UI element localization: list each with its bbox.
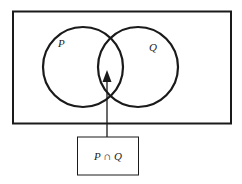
set-q-circle <box>98 27 178 107</box>
set-q-label: Q <box>149 41 157 53</box>
set-p-circle <box>43 27 123 107</box>
venn-diagram: P Q P ∩ Q <box>0 0 242 184</box>
intersection-label: P ∩ Q <box>93 150 122 162</box>
arrow-head-icon <box>103 70 112 82</box>
set-p-label: P <box>57 37 65 49</box>
